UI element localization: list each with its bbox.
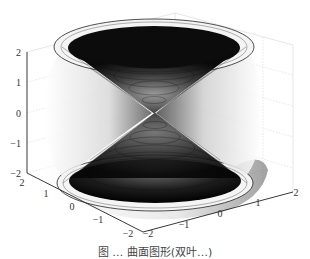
y-tick-label: −1 [93, 214, 104, 225]
x-tick-label: −1 [179, 219, 190, 230]
y-tick-label: 0 [70, 201, 75, 212]
z-tick-label: 0 [16, 108, 21, 119]
x-tick-label: 0 [218, 208, 223, 219]
z-tick-label: 1 [16, 77, 21, 88]
x-tick-label: 1 [256, 197, 261, 208]
z-tick-label: 2 [16, 47, 21, 58]
y-tick-label: 2 [20, 177, 25, 188]
x-tick-label: −2 [143, 228, 154, 239]
z-axis-ticks: 2 1 0 −1 −2 [10, 47, 21, 179]
x-tick-label: 2 [294, 187, 299, 198]
figure-caption: 图 … 曲面图形(双叶…) [0, 243, 310, 259]
y-tick-label: 1 [44, 188, 49, 199]
y-tick-label: −2 [123, 228, 134, 239]
z-tick-label: −1 [10, 138, 21, 149]
